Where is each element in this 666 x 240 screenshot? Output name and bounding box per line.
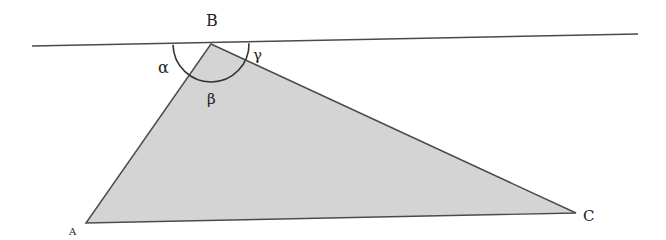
angle-label-gamma: γ [253,46,262,64]
vertex-label-b: B [206,11,218,30]
triangle-diagram: B A C α β γ [0,0,666,240]
vertex-label-c: C [583,207,594,225]
angle-label-beta: β [207,90,216,108]
vertex-label-a: A [68,226,77,237]
diagram-svg: B A C α β γ [0,0,666,240]
parallel-line-through-b [32,34,638,46]
angle-label-alpha: α [158,58,169,77]
